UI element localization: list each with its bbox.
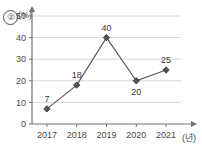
axes-group <box>29 6 197 127</box>
y-tick-label: 40 <box>16 33 26 43</box>
data-point-label: 25 <box>161 55 171 65</box>
series-polyline <box>47 38 166 109</box>
y-tick-label: 50 <box>16 11 26 21</box>
chart-figure: ② (%) (년) 01020304050 201720182019202020… <box>0 0 202 146</box>
y-tick-labels-group: 01020304050 <box>16 11 26 129</box>
y-tick-label: 30 <box>16 54 26 64</box>
line-chart-plot: 01020304050 20172018201920202021 7184020… <box>0 0 202 146</box>
x-tick-labels-group: 20172018201920202021 <box>37 130 176 140</box>
x-tick-label: 2020 <box>126 130 146 140</box>
data-point-markers-group <box>44 34 170 112</box>
x-tick-label: 2017 <box>37 130 57 140</box>
data-series-line <box>47 38 166 109</box>
x-tick-label: 2019 <box>96 130 116 140</box>
y-tick-label: 10 <box>16 98 26 108</box>
y-tick-label: 0 <box>21 119 26 129</box>
x-tick-label: 2021 <box>156 130 176 140</box>
data-point-labels-group: 718402025 <box>44 23 171 104</box>
data-point-label: 18 <box>72 70 82 80</box>
y-tick-label: 20 <box>16 76 26 86</box>
data-point-label: 40 <box>101 23 111 33</box>
x-tick-label: 2018 <box>67 130 87 140</box>
data-point-label: 20 <box>131 87 141 97</box>
data-point-marker <box>163 67 169 73</box>
data-point-label: 7 <box>44 94 49 104</box>
x-axis-arrow <box>191 121 197 127</box>
y-axis-arrow <box>29 6 35 12</box>
